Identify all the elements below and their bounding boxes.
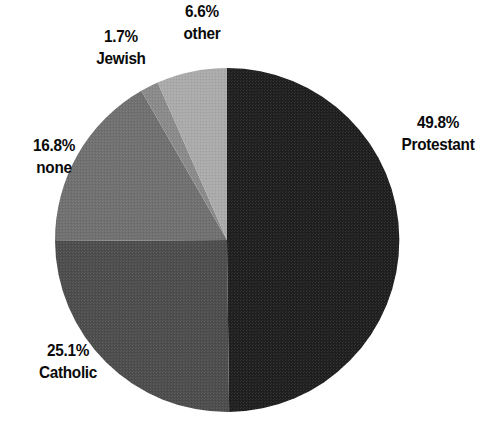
pie-label-none: 16.8% none	[7, 135, 101, 179]
pie-label-protestant: 49.8% Protestant	[391, 112, 485, 156]
pie-label-catholic-name: Catholic	[14, 362, 122, 384]
pie-chart-figure: 49.8% Protestant 25.1% Catholic 16.8% no…	[0, 0, 493, 440]
pie-label-catholic: 25.1% Catholic	[14, 340, 122, 384]
pie-label-other-name: other	[150, 23, 254, 45]
pie-label-protestant-name: Protestant	[391, 134, 485, 156]
pie-label-none-name: none	[7, 157, 101, 179]
pie-label-other: 6.6% other	[150, 1, 254, 45]
pie-label-catholic-value: 25.1%	[14, 340, 122, 362]
pie-label-jewish-name: Jewish	[72, 48, 171, 70]
pie-label-none-value: 16.8%	[7, 135, 101, 157]
pie-label-other-value: 6.6%	[150, 1, 254, 23]
pie-label-protestant-value: 49.8%	[391, 112, 485, 134]
